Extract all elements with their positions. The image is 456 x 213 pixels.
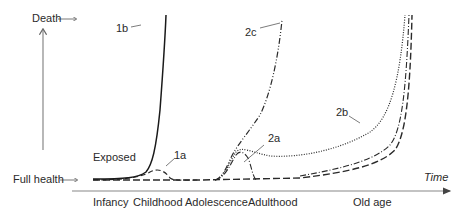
leader-1b bbox=[131, 25, 141, 27]
stage-childhood: Childhood bbox=[133, 197, 183, 208]
label-exposed: Exposed bbox=[93, 152, 136, 163]
leader-2a bbox=[244, 145, 264, 162]
label-2a: 2a bbox=[268, 133, 280, 144]
y-axis-bottom-label: Full health bbox=[13, 174, 64, 185]
label-1b: 1b bbox=[116, 23, 128, 34]
stage-old-age: Old age bbox=[353, 197, 392, 208]
stage-adolescence: Adolescence bbox=[185, 197, 248, 208]
y-axis-top-label: Death bbox=[32, 13, 61, 24]
label-2b: 2b bbox=[336, 107, 348, 118]
diagram-canvas bbox=[0, 0, 456, 213]
curve-baseline bbox=[93, 15, 412, 180]
stage-adulthood: Adulthood bbox=[248, 197, 298, 208]
x-axis-label: Time bbox=[424, 172, 448, 183]
label-1a: 1a bbox=[174, 150, 186, 161]
stage-infancy: Infancy bbox=[93, 197, 128, 208]
leader-2c bbox=[260, 23, 280, 28]
leader-2b bbox=[349, 116, 360, 123]
label-2c: 2c bbox=[245, 27, 257, 38]
